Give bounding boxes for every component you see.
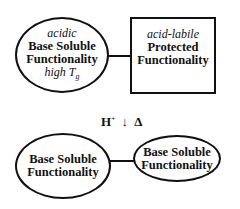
base-soluble-label: Base Soluble (28, 40, 96, 53)
heat-symbol: Δ (134, 114, 142, 129)
functionality-label: Functionality (137, 54, 209, 67)
acidic-label: acidic (47, 27, 76, 40)
acidic-base-soluble-ellipse: acidic Base Soluble Functionality high T… (15, 17, 109, 93)
top-connector (108, 55, 131, 57)
base-soluble-ellipse-right: Base Soluble Functionality (133, 135, 221, 182)
down-arrow-icon: ↓ (121, 114, 128, 129)
high-tg-label: high Tg (44, 66, 79, 83)
base-soluble-ellipse-left: Base Soluble Functionality (15, 133, 111, 199)
reaction-condition: H+ ↓ Δ (101, 114, 142, 130)
protected-functionality-box: acid-labile Protected Functionality (130, 17, 216, 94)
bottom-connector (110, 160, 134, 162)
